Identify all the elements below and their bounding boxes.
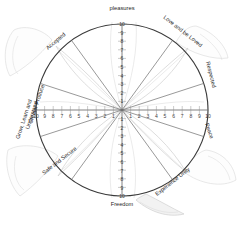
ribbon-flourish	[136, 194, 184, 215]
wheel-of-life-diagram: 10 9 8 7 6 5 4 3 2 1 1 2 3 4 5 6 7 8 9 1…	[0, 0, 244, 226]
tick-down-8: 8	[121, 176, 124, 182]
tick-left-7: 7	[60, 113, 63, 119]
tick-up-2: 2	[121, 90, 124, 96]
tick-left-4: 4	[86, 113, 89, 119]
tick-right-1: 1	[129, 113, 132, 119]
tick-right-4: 4	[155, 113, 158, 119]
tick-down-10: 10	[119, 193, 125, 199]
tick-up-3: 3	[121, 81, 124, 87]
tick-left-8: 8	[52, 113, 55, 119]
spoke-label-respected: Respected	[205, 61, 217, 88]
tick-down-6: 6	[121, 159, 124, 165]
tick-up-1: 1	[121, 98, 124, 104]
tick-right-7: 7	[181, 113, 184, 119]
tick-up-5: 5	[121, 64, 124, 70]
tick-right-2: 2	[138, 113, 141, 119]
tick-left-1: 1	[112, 113, 115, 119]
tick-right-3: 3	[146, 113, 149, 119]
tick-down-9: 9	[121, 185, 124, 191]
tick-right-9: 9	[198, 113, 201, 119]
tick-down-7: 7	[121, 168, 124, 174]
tick-right-6: 6	[172, 113, 175, 119]
wheel-canvas: 10 9 8 7 6 5 4 3 2 1 1 2 3 4 5 6 7 8 9 1…	[0, 0, 244, 226]
tick-right-10: 10	[205, 113, 211, 119]
tick-left-9: 9	[43, 113, 46, 119]
spoke-label-pleasures: pleasures	[109, 5, 134, 11]
spoke-label-freedom: Freedom	[111, 201, 134, 207]
tick-left-2: 2	[103, 113, 106, 119]
tick-up-8: 8	[121, 38, 124, 44]
spoke-label-experience-unity: Experience Unity	[154, 166, 191, 197]
tick-up-4: 4	[121, 73, 124, 79]
tick-down-3: 3	[121, 133, 124, 139]
tick-left-3: 3	[95, 113, 98, 119]
tick-down-1: 1	[121, 116, 124, 122]
tick-left-6: 6	[69, 113, 72, 119]
tick-left-5: 5	[78, 113, 81, 119]
tick-up-9: 9	[121, 30, 124, 36]
tick-down-5: 5	[121, 150, 124, 156]
tick-right-8: 8	[189, 113, 192, 119]
tick-right-5: 5	[164, 113, 167, 119]
tick-down-2: 2	[121, 125, 124, 131]
tick-up-10: 10	[119, 21, 125, 27]
tick-up-7: 7	[121, 47, 124, 53]
tick-up-6: 6	[121, 55, 124, 61]
tick-down-4: 4	[121, 142, 124, 148]
axis-numbers-left: 10 9 8 7 6 5 4 3 2 1	[33, 113, 115, 119]
